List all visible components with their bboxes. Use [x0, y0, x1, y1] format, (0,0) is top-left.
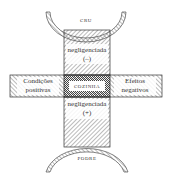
upper-column-label: negligenciada	[64, 47, 110, 54]
lower-column-sign: (+)	[64, 110, 110, 117]
right-arm-line2: negativos	[110, 87, 160, 94]
top-pole-label: CRU	[76, 18, 96, 23]
center-label: COZINHA	[64, 84, 110, 89]
bottom-pole-label: PODRE	[72, 156, 102, 161]
upper-column-sign: (–)	[64, 56, 110, 63]
left-arm-line1: Condições	[12, 78, 64, 85]
left-arm-line2: positivas	[12, 87, 64, 94]
lower-column-label: negligenciada	[64, 101, 110, 108]
right-arm-line1: Efeitos	[110, 78, 160, 85]
